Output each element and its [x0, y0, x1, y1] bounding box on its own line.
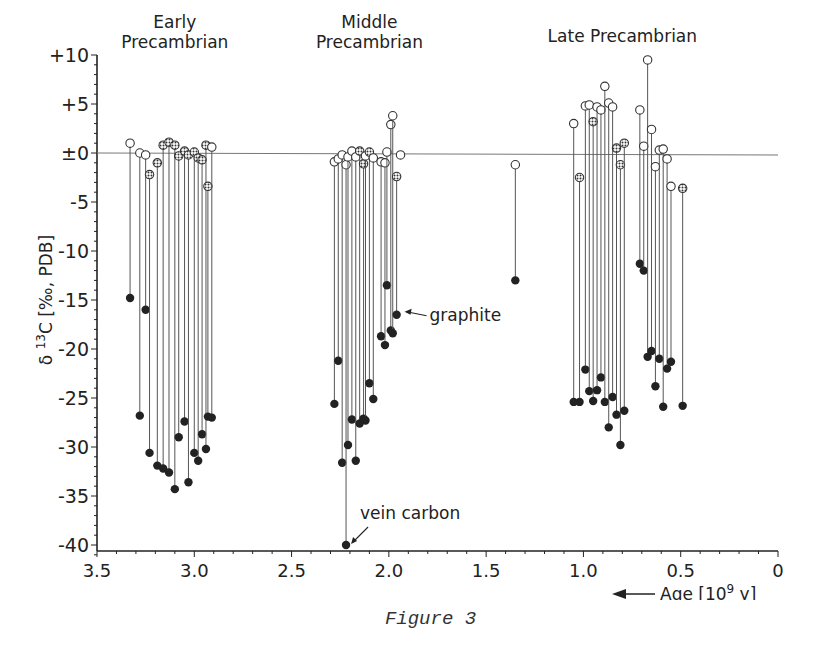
organic-carbon-marker — [585, 387, 593, 395]
data-points — [126, 56, 687, 550]
group-label: Early — [153, 12, 196, 32]
carbonate-open-marker — [659, 145, 667, 153]
organic-carbon-marker — [608, 393, 616, 401]
carbonate-open-marker — [369, 154, 377, 162]
organic-carbon-marker — [184, 478, 192, 486]
series-late-precambrian — [570, 56, 687, 450]
carbonate-hatched-marker — [204, 182, 212, 190]
graphite-arrowhead — [405, 309, 412, 315]
organic-carbon-marker — [651, 382, 659, 390]
x-tick-label: 0.5 — [666, 560, 695, 581]
carbonate-open-marker — [208, 143, 216, 151]
series-middle-precambrian — [330, 112, 405, 550]
carbonate-open-marker — [381, 159, 389, 167]
carbonate-open-marker — [141, 151, 149, 159]
organic-carbon-marker — [136, 411, 144, 419]
y-tick-label: -5 — [70, 191, 89, 213]
organic-carbon-marker — [198, 430, 206, 438]
carbonate-open-marker — [126, 139, 134, 147]
carbonate-hatched-marker — [171, 141, 179, 149]
y-tick-label: +10 — [49, 44, 89, 66]
group-label: Middle — [341, 12, 397, 32]
organic-carbon-marker — [141, 306, 149, 314]
carbonate-hatched-marker — [145, 170, 153, 178]
organic-carbon-marker — [389, 329, 397, 337]
x-tick-label: 3.5 — [83, 560, 112, 581]
organic-carbon-marker — [377, 332, 385, 340]
organic-carbon-marker — [338, 458, 346, 466]
organic-carbon-marker — [601, 398, 609, 406]
carbonate-open-marker — [647, 125, 655, 133]
y-tick-label: -25 — [58, 387, 89, 409]
carbonate-open-marker — [383, 148, 391, 156]
x-tick-label: 1.0 — [569, 560, 598, 581]
organic-carbon-marker — [361, 416, 369, 424]
carbonate-open-marker — [636, 106, 644, 114]
vein-carbon-arrowhead — [351, 537, 357, 544]
series-early-precambrian — [126, 138, 216, 493]
organic-carbon-marker — [383, 281, 391, 289]
group-label: Late Precambrian — [548, 26, 697, 46]
carbonate-hatched-marker — [359, 160, 367, 168]
organic-carbon-marker — [180, 417, 188, 425]
organic-carbon-marker — [589, 397, 597, 405]
organic-carbon-marker — [334, 357, 342, 365]
carbonate-open-marker — [597, 106, 605, 114]
organic-carbon-marker — [597, 373, 605, 381]
carbonate-hatched-marker — [616, 161, 624, 169]
carbonate-open-marker — [396, 151, 404, 159]
carbonate-open-marker — [663, 155, 671, 163]
organic-carbon-marker — [208, 413, 216, 421]
organic-carbon-marker — [330, 400, 338, 408]
organic-carbon-marker — [616, 441, 624, 449]
carbonate-open-marker — [585, 101, 593, 109]
x-tick-label: 2.0 — [375, 560, 404, 581]
y-tick-label: +5 — [61, 93, 89, 115]
carbonate-hatched-marker — [612, 144, 620, 152]
carbonate-open-marker — [667, 182, 675, 190]
carbonate-hatched-marker — [392, 172, 400, 180]
carbonate-open-marker — [643, 56, 651, 64]
y-tick-label: -30 — [58, 436, 89, 458]
carbonate-open-marker — [389, 112, 397, 120]
y-tick-label: -10 — [58, 240, 89, 262]
organic-carbon-marker — [126, 294, 134, 302]
organic-carbon-marker — [640, 266, 648, 274]
organic-carbon-marker — [381, 341, 389, 349]
organic-carbon-marker — [202, 445, 210, 453]
carbonate-open-marker — [342, 161, 350, 169]
organic-carbon-marker — [392, 311, 400, 319]
carbonate-open-marker — [640, 142, 648, 150]
y-axis-label: δ 13C [‰, PDB] — [34, 235, 56, 365]
carbonate-open-marker — [570, 119, 578, 127]
series-isolated — [511, 161, 519, 285]
organic-carbon-marker — [175, 433, 183, 441]
organic-carbon-marker — [145, 449, 153, 457]
carbonate-hatched-marker — [153, 159, 161, 167]
carbonate-open-marker — [387, 120, 395, 128]
carbonate-hatched-marker — [198, 156, 206, 164]
organic-carbon-marker — [352, 457, 360, 465]
x-tick-label: 3.0 — [180, 560, 209, 581]
y-tick-label: -35 — [58, 485, 89, 507]
organic-carbon-marker — [581, 365, 589, 373]
organic-carbon-marker — [342, 541, 350, 549]
organic-carbon-marker — [171, 485, 179, 493]
organic-carbon-marker — [593, 386, 601, 394]
carbonate-hatched-marker — [589, 117, 597, 125]
carbonate-open-marker — [511, 161, 519, 169]
isotope-chart: +10+5±0-5-10-15-20-25-30-35-403.53.02.52… — [0, 0, 821, 600]
organic-carbon-marker — [667, 358, 675, 366]
carbonate-hatched-marker — [678, 184, 686, 192]
organic-carbon-marker — [678, 402, 686, 410]
y-tick-label: -40 — [58, 534, 89, 556]
carbonate-hatched-marker — [575, 173, 583, 181]
carbonate-open-marker — [601, 82, 609, 90]
organic-carbon-marker — [647, 347, 655, 355]
organic-carbon-marker — [659, 403, 667, 411]
y-tick-label: ±0 — [61, 142, 89, 164]
y-tick-label: -20 — [58, 338, 89, 360]
age-direction-arrowhead — [612, 589, 626, 599]
vein-carbon-label: vein carbon — [360, 503, 460, 523]
carbonate-open-marker — [651, 163, 659, 171]
